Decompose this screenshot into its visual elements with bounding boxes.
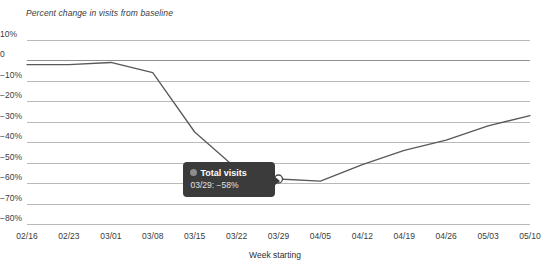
x-axis-title: Week starting: [0, 250, 550, 260]
tooltip-series-name: Total visits: [201, 168, 247, 178]
tooltip-header: Total visits: [190, 166, 269, 179]
series-color-swatch-icon: [190, 169, 197, 176]
data-point-tooltip: Total visits 03/29: −58%: [183, 162, 275, 197]
tooltip-value-text: 03/29: −58%: [191, 180, 269, 190]
line-chart: Percent change in visits from baseline 1…: [0, 0, 550, 274]
series-line-total-visits: [27, 62, 530, 181]
series-layer: [0, 0, 550, 274]
